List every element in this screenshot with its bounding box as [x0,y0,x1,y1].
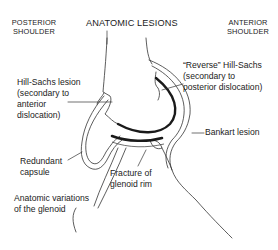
posterior-capsule-inner [86,100,120,164]
bankart-lesion-label: Bankart lesion [205,127,259,138]
label-line: Fracture of [110,168,152,179]
posterior-shoulder-header: POSTERIOR SHOULDER [4,18,64,36]
fracture-leader [138,150,146,166]
header-line: POSTERIOR [4,18,64,27]
label-line: glenoid rim [110,179,152,190]
label-line: (secondary to [17,88,81,99]
header-line: SHOULDER [4,27,64,36]
humeral-head-cartilage [118,78,175,132]
label-line: of the glenoid [14,204,89,215]
label-line: Hill-Sachs lesion [17,77,81,88]
label-line: Redundant [20,156,62,167]
label-line: posterior dislocation) [183,82,262,93]
header-line: ANTERIOR [220,18,276,27]
anatomic-variations-label: Anatomic variations of the glenoid [14,193,89,215]
anterior-shoulder-header: ANTERIOR SHOULDER [220,18,276,36]
label-line: Anatomic variations [14,193,89,204]
label-line: “Reverse” Hill-Sachs [183,60,262,71]
header-line: SHOULDER [220,27,276,36]
humerus-left-edge [103,38,118,124]
label-line: capsule [20,167,62,178]
fracture-glenoid-rim-label: Fracture of glenoid rim [110,168,152,190]
label-line: dislocation) [17,110,81,121]
redundant-capsule-label: Redundant capsule [20,156,62,178]
label-line: (secondary to [183,71,262,82]
reverse-hill-sachs-label: “Reverse” Hill-Sachs (secondary to poste… [183,60,262,93]
hill-sachs-label: Hill-Sachs lesion (secondary to anterior… [17,77,81,121]
redundant-capsule-leader [68,152,82,160]
page-title: ANATOMIC LESIONS [86,18,178,29]
label-line: anterior [17,99,81,110]
